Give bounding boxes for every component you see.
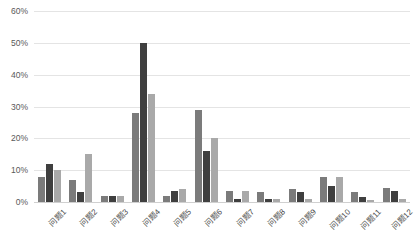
bar-group (222, 11, 253, 202)
bar[interactable] (320, 177, 327, 202)
bar[interactable] (297, 192, 304, 202)
bar[interactable] (351, 192, 358, 202)
y-tick-label: 50% (11, 38, 28, 48)
bar[interactable] (391, 191, 398, 202)
bar[interactable] (203, 151, 210, 202)
y-axis: 60%50%40%30%20%10%0% (0, 11, 32, 202)
x-tick-label: 问题9 (296, 206, 318, 228)
bar[interactable] (85, 154, 92, 202)
bar-group (191, 11, 222, 202)
bar[interactable] (171, 191, 178, 202)
x-tick-cell: 问题10 (316, 203, 347, 248)
x-tick-cell: 问题8 (253, 203, 284, 248)
x-tick-label: 问题6 (202, 206, 224, 228)
bar[interactable] (163, 196, 170, 202)
bar[interactable] (359, 197, 366, 202)
x-tick-cell: 问题5 (159, 203, 190, 248)
y-tick-label: 30% (11, 102, 28, 112)
x-tick-cell: 问题7 (222, 203, 253, 248)
bar-group (316, 11, 347, 202)
bar[interactable] (265, 199, 272, 202)
x-tick-cell: 问题9 (285, 203, 316, 248)
bar-group (97, 11, 128, 202)
bar-group (253, 11, 284, 202)
bar[interactable] (38, 177, 45, 202)
x-tick-label: 问题7 (233, 206, 255, 228)
bar[interactable] (367, 200, 374, 202)
x-axis: 问题1问题2问题3问题4问题5问题6问题7问题8问题9问题10问题11问题12 (34, 203, 410, 248)
y-tick-label: 10% (11, 165, 28, 175)
bar-group (34, 11, 65, 202)
bar[interactable] (77, 192, 84, 202)
bar-group (285, 11, 316, 202)
bar[interactable] (399, 199, 406, 202)
x-tick-label: 问题4 (139, 206, 161, 228)
x-tick-cell: 问题6 (191, 203, 222, 248)
y-tick-label: 40% (11, 70, 28, 80)
bar-group (128, 11, 159, 202)
bar[interactable] (179, 189, 186, 202)
bar[interactable] (226, 191, 233, 202)
y-tick-label: 20% (11, 133, 28, 143)
bar[interactable] (211, 138, 218, 202)
x-tick-label: 问题2 (77, 206, 99, 228)
x-tick-label: 问题1 (45, 206, 67, 228)
bar[interactable] (132, 113, 139, 202)
x-tick-cell: 问题1 (34, 203, 65, 248)
y-tick-label: 60% (11, 6, 28, 16)
bar[interactable] (46, 164, 53, 202)
bar[interactable] (289, 189, 296, 202)
x-tick-cell: 问题3 (97, 203, 128, 248)
x-tick-label: 问题12 (389, 206, 414, 231)
bar[interactable] (383, 188, 390, 202)
y-tick-label: 0% (16, 197, 28, 207)
bar[interactable] (140, 43, 147, 202)
x-tick-cell: 问题2 (65, 203, 96, 248)
bar-group (65, 11, 96, 202)
bar[interactable] (148, 94, 155, 202)
bar-group (347, 11, 378, 202)
x-tick-label: 问题3 (108, 206, 130, 228)
bar[interactable] (257, 192, 264, 202)
bar-groups (34, 11, 410, 202)
bar[interactable] (305, 199, 312, 202)
bar-group (159, 11, 190, 202)
bar[interactable] (273, 199, 280, 202)
bar-group (379, 11, 410, 202)
x-tick-cell: 问题11 (347, 203, 378, 248)
x-tick-label: 问题5 (171, 206, 193, 228)
bar[interactable] (336, 177, 343, 202)
bar[interactable] (195, 110, 202, 202)
x-tick-label: 问题8 (265, 206, 287, 228)
bar[interactable] (101, 196, 108, 202)
x-tick-cell: 问题4 (128, 203, 159, 248)
bar[interactable] (234, 199, 241, 202)
plot-area (34, 11, 410, 202)
x-tick-cell: 问题12 (379, 203, 410, 248)
bar[interactable] (109, 196, 116, 202)
bar[interactable] (54, 170, 61, 202)
bar-chart: 60%50%40%30%20%10%0% 问题1问题2问题3问题4问题5问题6问… (0, 0, 414, 248)
bar[interactable] (242, 191, 249, 202)
bar[interactable] (69, 180, 76, 202)
bar[interactable] (117, 196, 124, 202)
bar[interactable] (328, 186, 335, 202)
